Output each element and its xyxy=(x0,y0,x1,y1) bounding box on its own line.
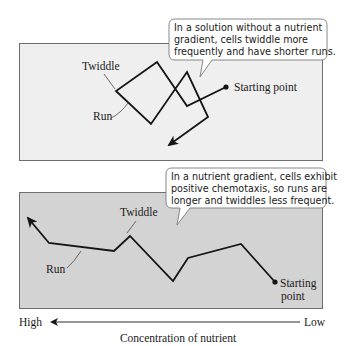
axis-title: Concentration of nutrient xyxy=(120,332,237,344)
bottom-callout-line-2: positive chemotaxis, so runs are xyxy=(171,183,327,194)
twiddle-leader-line xyxy=(104,74,115,89)
bottom-twiddle-leader-line xyxy=(127,221,136,233)
bottom-run-leader-line xyxy=(67,251,81,268)
start-point-dot xyxy=(223,84,228,89)
axis-high-label: High xyxy=(19,316,42,329)
run-leader-line xyxy=(111,102,129,118)
bottom-callout-line-3: longer and twiddles less frequent. xyxy=(171,195,334,206)
random-walk-path xyxy=(116,62,229,145)
chemotaxis-path xyxy=(28,218,278,285)
bottom-twiddle-label: Twiddle xyxy=(120,206,158,218)
bottom-callout: In a nutrient gradient, cells exhibit po… xyxy=(166,168,337,225)
top-callout-line-2: gradient, cells twiddle more xyxy=(174,34,308,45)
bottom-start-label-line-1: Starting xyxy=(280,277,317,290)
top-callout: In a solution without a nutrient gradien… xyxy=(169,19,336,77)
axis-low-label: Low xyxy=(304,316,326,328)
bottom-start-label-line-2: point xyxy=(281,290,305,303)
bottom-start-point-dot xyxy=(272,279,277,284)
top-run-label: Run xyxy=(93,110,112,122)
bottom-run-label: Run xyxy=(46,263,65,275)
top-callout-line-1: In a solution without a nutrient xyxy=(174,22,322,33)
top-twiddle-label: Twiddle xyxy=(82,60,120,72)
top-callout-line-3: frequently and have shorter runs. xyxy=(174,46,336,57)
top-start-label: Starting point xyxy=(234,81,298,94)
bottom-callout-line-1: In a nutrient gradient, cells exhibit xyxy=(171,171,337,182)
